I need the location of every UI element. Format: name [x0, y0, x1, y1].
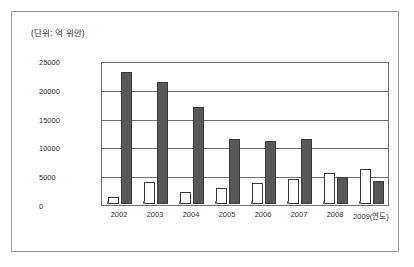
- bar-series-white-2008: [324, 173, 335, 204]
- baseline-tick: [179, 201, 181, 204]
- x-tick-label: 2006: [255, 210, 272, 219]
- baseline-tick: [323, 201, 325, 204]
- bar-series-dark-2008: [337, 177, 348, 204]
- baseline-tick: [251, 201, 253, 204]
- y-tick-label: 5000: [39, 173, 87, 182]
- unit-caption: (단위: 억 위안): [31, 26, 85, 38]
- bar-series-white-2002: [108, 197, 119, 204]
- y-axis: 0500010000150002000025000: [31, 62, 95, 206]
- bar-series-white-2005: [216, 188, 227, 204]
- bar-series-white-2006: [252, 183, 263, 204]
- bar-series-dark-2003: [157, 82, 168, 204]
- bar-series-white-2004: [180, 192, 191, 204]
- x-tick-label: 2009(연도): [353, 210, 389, 221]
- y-tick-label: 25000: [39, 58, 87, 67]
- bar-series-white-2007: [288, 179, 299, 204]
- bar-series-dark-2002: [121, 72, 132, 204]
- baseline-tick: [215, 201, 217, 204]
- baseline-tick: [287, 201, 289, 204]
- y-tick-label: 10000: [39, 144, 87, 153]
- x-tick-label: 2005: [219, 210, 236, 219]
- baseline-tick: [143, 201, 145, 204]
- x-tick-label: 2007: [291, 210, 308, 219]
- x-tick-label: 2008: [327, 210, 344, 219]
- bar-series-dark-2009: [373, 181, 384, 204]
- x-axis: 20022003200420052006200720082009(연도): [101, 208, 389, 226]
- x-tick-label: 2002: [111, 210, 128, 219]
- plot-area: [101, 62, 389, 206]
- y-tick-label: 20000: [39, 86, 87, 95]
- figure-frame: (단위: 억 위안) 0500010000150002000025000 200…: [11, 11, 399, 252]
- bar-series-white-2009: [360, 169, 371, 204]
- bar-series-dark-2005: [229, 139, 240, 204]
- baseline-tick: [107, 201, 109, 204]
- baseline-tick: [359, 201, 361, 204]
- bar-series-dark-2006: [265, 141, 276, 204]
- bar-series-dark-2007: [301, 139, 312, 204]
- x-tick-label: 2003: [147, 210, 164, 219]
- bar-series-dark-2004: [193, 107, 204, 204]
- x-tick-label: 2004: [183, 210, 200, 219]
- y-tick-label: 0: [39, 202, 87, 211]
- bar-series-white-2003: [144, 182, 155, 204]
- bars-layer: [103, 63, 387, 204]
- y-tick-label: 15000: [39, 115, 87, 124]
